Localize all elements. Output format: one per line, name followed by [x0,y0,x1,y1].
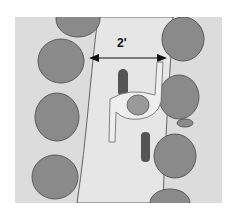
dimension-label: 2' [117,36,127,50]
illustration-panel: 2' [15,17,222,203]
